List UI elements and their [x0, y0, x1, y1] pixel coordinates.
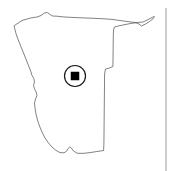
- marker-square-icon: [71, 72, 80, 81]
- country-locator-map: Namibia: [0, 0, 173, 171]
- namibia-country-outline[interactable]: [15, 13, 155, 154]
- map-canvas[interactable]: [0, 0, 173, 171]
